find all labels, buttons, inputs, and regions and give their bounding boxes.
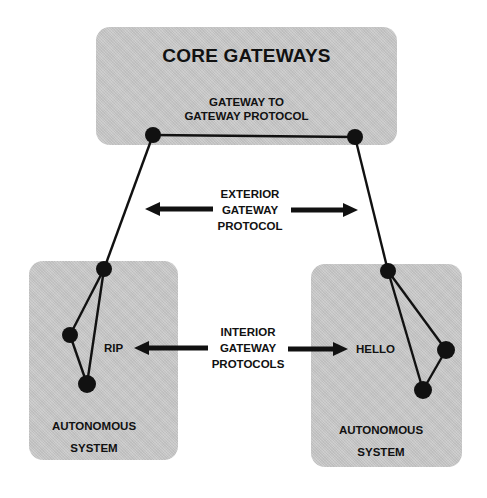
label-line: GATEWAY: [200, 202, 300, 218]
autonomous-system-left-label: AUTONOMOUS SYSTEM: [29, 415, 159, 459]
label-line: SYSTEM: [29, 437, 159, 459]
hello-protocol-label: HELLO: [356, 342, 395, 356]
label-line: SYSTEM: [311, 441, 451, 463]
label-line: GATEWAY TO: [96, 95, 397, 109]
label-line: AUTONOMOUS: [311, 419, 451, 441]
label-line: PROTOCOLS: [198, 356, 298, 372]
core-gateways-title: CORE GATEWAYS: [96, 44, 397, 68]
label-line: PROTOCOL: [200, 218, 300, 234]
label-line: AUTONOMOUS: [29, 415, 159, 437]
core-to-right-as-link: [355, 137, 388, 271]
interior-gateway-protocols-label: INTERIOR GATEWAY PROTOCOLS: [198, 324, 298, 372]
core-to-left-as-link: [104, 135, 153, 269]
label-line: GATEWAY: [198, 340, 298, 356]
label-line: INTERIOR: [198, 324, 298, 340]
rip-protocol-label: RIP: [104, 341, 123, 355]
exterior-gateway-protocol-label: EXTERIOR GATEWAY PROTOCOL: [200, 186, 300, 234]
label-line: EXTERIOR: [200, 186, 300, 202]
autonomous-system-right-label: AUTONOMOUS SYSTEM: [311, 419, 451, 463]
gateway-to-gateway-protocol-label: GATEWAY TO GATEWAY PROTOCOL: [96, 95, 397, 124]
arrowhead-right-icon: [343, 203, 358, 217]
label-line: GATEWAY PROTOCOL: [96, 109, 397, 123]
arrowhead-left-icon: [145, 202, 160, 216]
